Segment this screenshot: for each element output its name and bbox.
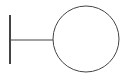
boundary-circle (53, 6, 119, 72)
boundary-symbol (0, 0, 127, 79)
